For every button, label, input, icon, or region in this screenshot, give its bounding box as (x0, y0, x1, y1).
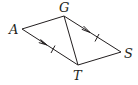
label-T: T (73, 68, 83, 83)
label-G: G (59, 0, 69, 15)
segment-ST (78, 52, 121, 65)
label-A: A (8, 22, 18, 37)
quadrilateral-diagram: A G S T (0, 0, 138, 85)
segment-AG (22, 16, 64, 29)
label-S: S (124, 46, 133, 61)
